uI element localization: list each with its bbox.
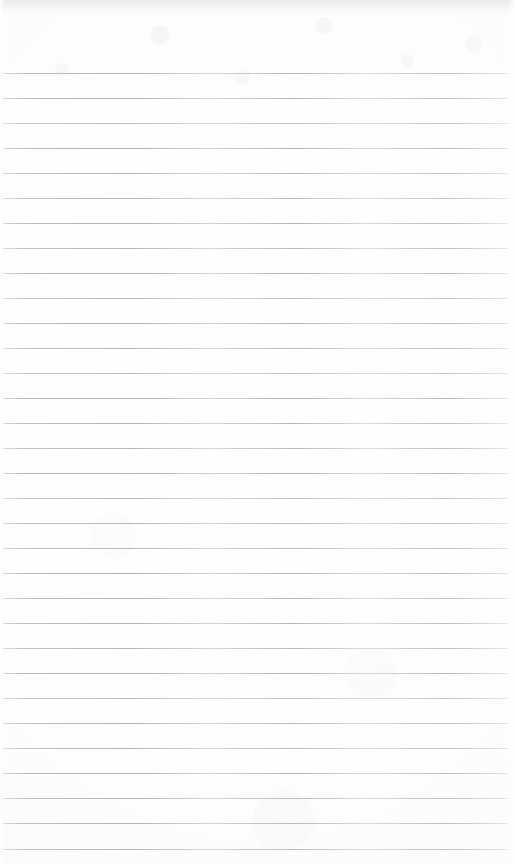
rule-line [2,323,508,324]
rule-line [2,498,508,499]
rule-line [2,773,508,774]
rule-line [2,823,508,824]
rule-line [2,573,508,574]
rule-line [2,73,508,74]
rule-line [2,198,508,199]
rule-line [2,849,508,850]
rule-line [2,98,508,99]
rule-line [2,448,508,449]
rule-line [2,148,508,149]
rule-line [2,523,508,524]
rule-line [2,698,508,699]
rule-line [2,648,508,649]
rule-line [2,748,508,749]
rule-line [2,223,508,224]
rule-line [2,248,508,249]
rule-line [2,623,508,624]
rule-line [2,548,508,549]
rule-line [2,598,508,599]
notebook-page [0,0,515,864]
rule-line [2,373,508,374]
rule-line [2,423,508,424]
ruled-lines-layer [0,0,515,864]
rule-line [2,123,508,124]
rule-line [2,798,508,799]
rule-line [2,398,508,399]
rule-line [2,673,508,674]
rule-line [2,348,508,349]
rule-line [2,298,508,299]
rule-line [2,273,508,274]
rule-line [2,723,508,724]
rule-line [2,173,508,174]
rule-line [2,473,508,474]
